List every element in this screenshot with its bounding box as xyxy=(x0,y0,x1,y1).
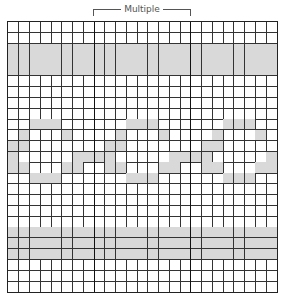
grid-cell xyxy=(40,260,51,271)
grid-cell xyxy=(62,173,73,184)
grid-cell xyxy=(105,65,116,76)
grid-cell xyxy=(137,65,148,76)
grid-cell xyxy=(266,98,277,109)
grid-cell xyxy=(191,98,202,109)
grid-cell xyxy=(8,119,19,130)
grid-cell xyxy=(51,98,62,109)
grid-cell xyxy=(202,119,213,130)
grid-cell xyxy=(191,184,202,195)
grid-cell xyxy=(19,141,30,152)
grid-cell xyxy=(169,216,180,227)
grid-cell xyxy=(73,33,84,44)
grid-cell xyxy=(94,87,105,98)
grid-cell xyxy=(223,195,234,206)
grid-cell xyxy=(245,54,256,65)
grid-cell xyxy=(223,141,234,152)
grid-cell xyxy=(116,152,127,163)
grid-cell xyxy=(148,206,159,217)
grid-cell xyxy=(116,238,127,249)
grid-cell xyxy=(19,270,30,281)
grid-cell xyxy=(40,98,51,109)
grid-cell xyxy=(19,98,30,109)
grid-cell xyxy=(137,281,148,292)
grid-cell xyxy=(126,22,137,33)
grid-cell xyxy=(62,108,73,119)
grid-cell xyxy=(51,76,62,87)
grid-cell xyxy=(19,260,30,271)
grid-cell xyxy=(266,184,277,195)
grid-cell xyxy=(126,162,137,173)
grid-cell xyxy=(8,33,19,44)
grid-cell xyxy=(169,270,180,281)
grid-cell xyxy=(169,141,180,152)
grid-cell xyxy=(234,108,245,119)
grid-cell xyxy=(94,173,105,184)
grid-cell xyxy=(126,238,137,249)
grid-cell xyxy=(148,141,159,152)
grid-cell xyxy=(159,152,170,163)
grid-cell xyxy=(202,206,213,217)
grid-cell xyxy=(94,249,105,260)
grid-cell xyxy=(8,152,19,163)
grid-cell xyxy=(255,65,266,76)
multiple-bracket: Multiple xyxy=(93,4,191,16)
grid-cell xyxy=(191,227,202,238)
grid-cell xyxy=(51,249,62,260)
grid-cell xyxy=(191,162,202,173)
grid-cell xyxy=(223,22,234,33)
grid-cell xyxy=(73,22,84,33)
grid-cell xyxy=(266,65,277,76)
grid-cell xyxy=(169,76,180,87)
grid-cell xyxy=(51,130,62,141)
grid-cell xyxy=(202,98,213,109)
grid-cell xyxy=(94,44,105,55)
grid-cell xyxy=(126,44,137,55)
grid-cell xyxy=(202,195,213,206)
grid-cell xyxy=(8,141,19,152)
grid-cell xyxy=(73,216,84,227)
grid-cell xyxy=(105,195,116,206)
grid-cell xyxy=(202,152,213,163)
grid-cell xyxy=(51,260,62,271)
grid-cell xyxy=(73,173,84,184)
grid-cell xyxy=(234,195,245,206)
grid-cell xyxy=(212,119,223,130)
grid-cell xyxy=(212,270,223,281)
grid-cell xyxy=(159,108,170,119)
grid-cell xyxy=(234,270,245,281)
grid-cell xyxy=(202,54,213,65)
grid-cell xyxy=(8,108,19,119)
repeat-divider xyxy=(190,22,191,292)
grid-cell xyxy=(255,87,266,98)
grid-cell xyxy=(169,108,180,119)
grid-cell xyxy=(159,87,170,98)
grid-cell xyxy=(223,227,234,238)
grid-cell xyxy=(73,195,84,206)
grid-cell xyxy=(159,22,170,33)
grid-cell xyxy=(105,119,116,130)
grid-cell xyxy=(169,206,180,217)
grid-cell xyxy=(137,195,148,206)
grid-cell xyxy=(202,249,213,260)
grid-cell xyxy=(202,87,213,98)
grid-cell xyxy=(51,162,62,173)
grid-cell xyxy=(159,281,170,292)
grid-cell xyxy=(148,238,159,249)
grid-cell xyxy=(126,152,137,163)
grid-cell xyxy=(223,152,234,163)
grid-cell xyxy=(116,87,127,98)
grid-cell xyxy=(73,76,84,87)
grid-cell xyxy=(223,108,234,119)
grid-cell xyxy=(62,141,73,152)
grid-cell xyxy=(126,76,137,87)
grid-cell xyxy=(148,195,159,206)
grid-cell xyxy=(245,281,256,292)
grid-cell xyxy=(169,238,180,249)
grid-cell xyxy=(30,130,41,141)
grid-cell xyxy=(212,227,223,238)
grid-cell xyxy=(51,238,62,249)
grid-cell xyxy=(159,119,170,130)
grid-cell xyxy=(245,87,256,98)
grid-cell xyxy=(105,87,116,98)
grid-cell xyxy=(62,33,73,44)
